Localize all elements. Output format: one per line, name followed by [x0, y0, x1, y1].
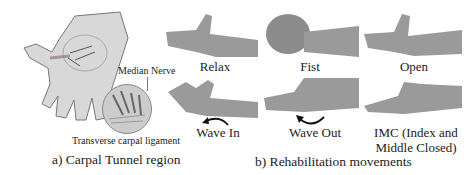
median-nerve-label: Median Nerve: [118, 65, 175, 76]
label-wave-out: Wave Out: [280, 125, 350, 141]
hand-wave-out: [264, 78, 359, 118]
median-nerve-pointer: [147, 77, 148, 91]
hand-wave-in: [166, 78, 258, 118]
hand-imc: [364, 78, 462, 118]
label-relax: Relax: [195, 59, 235, 75]
label-open: Open: [394, 59, 434, 75]
label-wave-in: Wave In: [188, 125, 248, 141]
label-imc-line1: IMC (Index and: [371, 125, 461, 141]
ligament-label: Transverse carpal ligament: [72, 135, 180, 146]
label-fist: Fist: [295, 59, 325, 75]
caption-b: b) Rehabilitation movements: [255, 154, 412, 170]
hand-open: [364, 12, 462, 57]
hand-fist: [264, 12, 359, 57]
hand-relax: [166, 12, 258, 57]
caption-a: a) Carpal Tunnel region: [52, 152, 181, 168]
detail-circle: [102, 84, 152, 134]
